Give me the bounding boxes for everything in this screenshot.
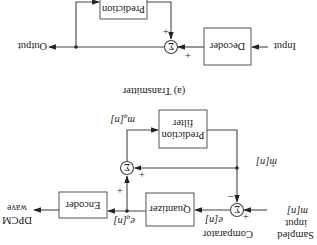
mq-wire (127, 130, 158, 161)
dpcm-wave-label: DPCM wave (2, 203, 32, 226)
svg-text:m[n]: m[n] (287, 206, 308, 217)
prediction-filter-block (159, 110, 207, 148)
sigma-icon: Σ (168, 41, 174, 52)
svg-text:input: input (285, 218, 307, 229)
receiver: Input Decoder + Σ + Output Prediction (18, 0, 296, 65)
receiver-output-label: Output (18, 41, 47, 52)
filter-output-wire (207, 130, 237, 167)
plus-sign: + (117, 185, 123, 197)
svg-text:Sampled: Sampled (277, 230, 314, 241)
transmitter: Sampled input m[n] Comparator Σ + − e[n]… (2, 85, 314, 241)
plus-sign: + (185, 50, 191, 62)
receiver-input-label: Input (274, 41, 296, 52)
svg-text:Prediction: Prediction (101, 4, 145, 15)
dpcm-diagram-canvas: Sampled input m[n] Comparator Σ + − e[n]… (0, 0, 317, 245)
transmitter-caption: (a) Transmitter (122, 85, 185, 97)
sigma-icon: Σ (234, 204, 240, 215)
svg-text:Decoder: Decoder (209, 41, 245, 52)
svg-text:filter: filter (172, 118, 193, 129)
quantized-error-label: eq[n] (113, 214, 135, 227)
comparator-label: Comparator (202, 229, 253, 240)
error-label: e[n] (205, 215, 223, 226)
svg-text:wave: wave (7, 203, 27, 213)
sigma-icon: Σ (124, 162, 130, 173)
svg-text:DPCM: DPCM (2, 215, 32, 226)
plus-sign: + (243, 211, 249, 223)
svg-text:Encoder: Encoder (65, 200, 100, 211)
mq-label: mq[n] (110, 113, 135, 126)
svg-text:Prediction: Prediction (161, 130, 205, 141)
plus-sign: + (163, 26, 169, 38)
sampled-input-label: Sampled input m[n] (277, 206, 314, 241)
minus-sign: − (228, 191, 234, 203)
receiver-feedback-wire (76, 2, 99, 47)
prediction-label: m̂[n] (256, 157, 277, 168)
plus-sign: + (139, 169, 145, 181)
svg-text:Quantizer: Quantizer (149, 204, 191, 215)
dpcm-block-diagram: Sampled input m[n] Comparator Σ + − e[n]… (0, 0, 317, 245)
